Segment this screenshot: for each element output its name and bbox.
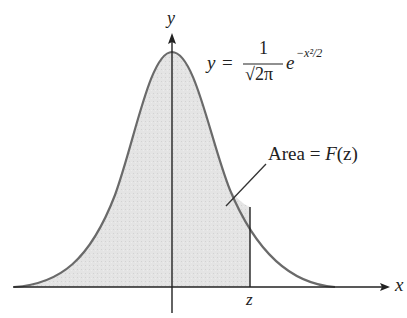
y-axis-label: y: [167, 8, 175, 29]
equation-lhs: y: [207, 52, 215, 74]
x-axis-label: x: [395, 274, 403, 296]
equation-equals: =: [222, 52, 233, 74]
equation-numerator: 1: [259, 38, 268, 59]
area-label-arg: (z): [337, 143, 358, 164]
z-label: z: [246, 290, 253, 310]
area-leader-line: [226, 164, 266, 206]
area-label: Area = F(z): [268, 143, 358, 165]
equation-base: e: [286, 52, 294, 74]
area-label-prefix: Area =: [268, 143, 325, 164]
equation-exponent: −x²/2: [296, 46, 322, 61]
shaded-area: [14, 52, 250, 287]
equation-denominator: √2π: [245, 64, 273, 85]
area-label-func: F: [325, 143, 337, 164]
